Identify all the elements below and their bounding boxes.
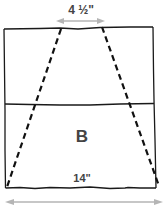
bottom-dimension-arrow	[5, 199, 163, 205]
left-taper-dashed-line	[7, 29, 61, 187]
panel-label: B	[76, 127, 88, 146]
bottom-dimension-label: 14"	[73, 172, 90, 184]
right-taper-dashed-line	[102, 27, 159, 186]
pattern-diagram: 4 ½" B 14"	[0, 0, 167, 209]
top-dimension-label: 4 ½"	[68, 3, 94, 17]
top-dimension-arrow	[56, 18, 105, 24]
panel-outline	[4, 27, 156, 189]
divider-line	[5, 104, 154, 106]
